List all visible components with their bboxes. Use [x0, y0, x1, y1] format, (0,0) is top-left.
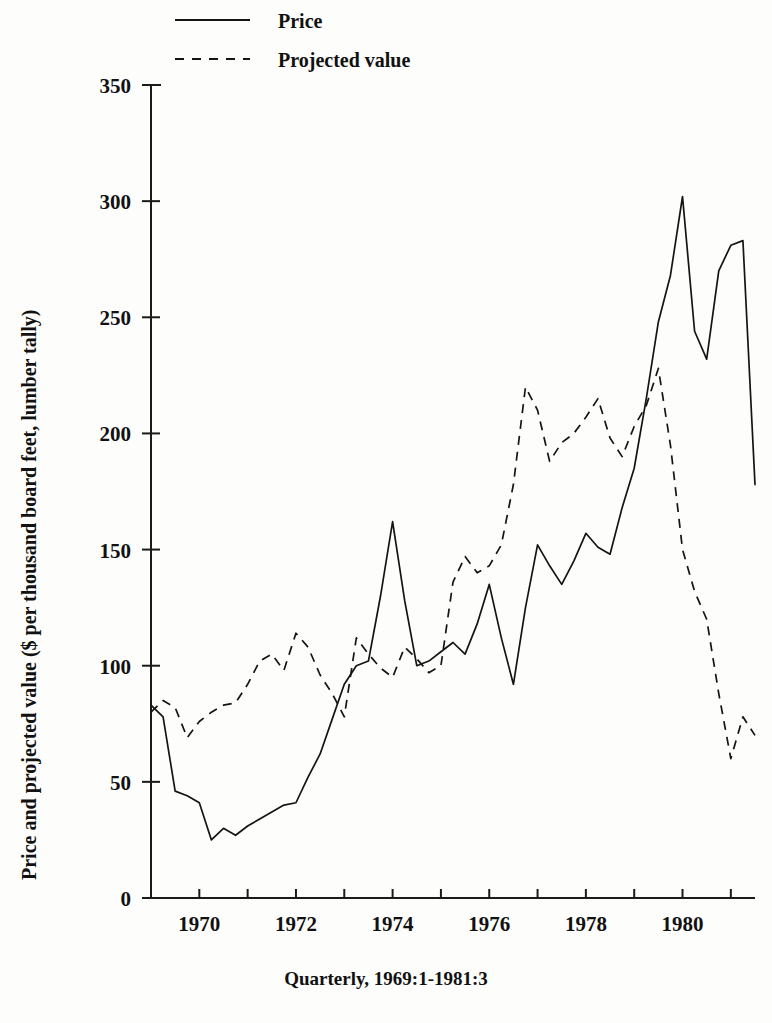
x-tick-label-1970: 1970: [178, 912, 220, 936]
series-line-projected-value: [151, 368, 755, 758]
x-tick-label-1974: 1974: [372, 912, 415, 936]
x-tick-label-1980: 1980: [662, 912, 704, 936]
x-axis-ticks: 197019721974197619781980: [151, 889, 731, 936]
y-tick-label-0: 0: [121, 887, 132, 911]
series-line-price: [151, 197, 755, 840]
x-tick-label-1978: 1978: [565, 912, 607, 936]
x-axis-caption: Quarterly, 1969:1-1981:3: [284, 968, 488, 989]
axis-lines: [151, 85, 755, 898]
y-tick-label-200: 200: [100, 422, 132, 446]
y-tick-label-150: 150: [100, 539, 132, 563]
y-tick-label-300: 300: [100, 190, 132, 214]
x-tick-label-1972: 1972: [275, 912, 317, 936]
chart-canvas: Price Projected value 050100150200250300…: [0, 0, 772, 1023]
chart-legend: Price Projected value: [175, 10, 410, 72]
y-tick-label-100: 100: [100, 655, 132, 679]
legend-label-projected-value: Projected value: [278, 49, 410, 72]
line-chart: Price Projected value 050100150200250300…: [0, 0, 772, 1023]
y-tick-label-50: 50: [110, 771, 131, 795]
legend-label-price: Price: [278, 10, 323, 32]
y-axis-title: Price and projected value ($ per thousan…: [18, 309, 41, 880]
x-tick-label-1976: 1976: [468, 912, 510, 936]
y-tick-label-250: 250: [100, 306, 132, 330]
y-tick-label-350: 350: [100, 74, 132, 98]
